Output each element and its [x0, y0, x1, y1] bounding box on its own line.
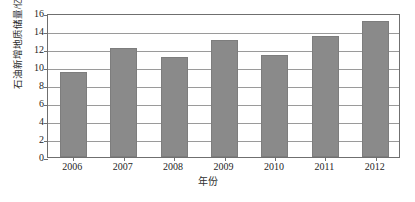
bar-2012 — [362, 21, 389, 157]
y-tick-label: 12 — [20, 45, 44, 55]
y-tick-label: 8 — [20, 81, 44, 91]
bar-2010 — [261, 55, 288, 157]
y-axis-tick-labels: 0246810121416 — [20, 0, 44, 202]
bars-group — [48, 15, 399, 157]
bar-chart: 石油新增地质储量/亿吨 0246810121416 20062007200820… — [0, 0, 415, 202]
x-axis-tick-labels: 2006200720082009201020112012 — [47, 161, 400, 175]
bar-2006 — [60, 72, 87, 157]
x-tick-label-2007: 2007 — [101, 161, 145, 173]
plot-area — [47, 14, 400, 158]
y-tick-label: 2 — [20, 135, 44, 145]
y-tick-label: 16 — [20, 9, 44, 19]
x-tick-label-2010: 2010 — [252, 161, 296, 173]
y-tick-label: 0 — [20, 153, 44, 163]
y-tick-label: 14 — [20, 27, 44, 37]
x-tick-label-2008: 2008 — [151, 161, 195, 173]
y-tick-mark — [44, 159, 48, 160]
x-axis-title: 年份 — [0, 176, 415, 188]
y-tick-label: 10 — [20, 63, 44, 73]
bar-2011 — [312, 36, 339, 157]
y-tick-label: 6 — [20, 99, 44, 109]
x-tick-label-2012: 2012 — [353, 161, 397, 173]
x-tick-label-2006: 2006 — [50, 161, 94, 173]
bar-2008 — [161, 57, 188, 157]
x-tick-label-2009: 2009 — [202, 161, 246, 173]
bar-2007 — [110, 48, 137, 157]
y-tick-label: 4 — [20, 117, 44, 127]
bar-2009 — [211, 40, 238, 157]
x-tick-label-2011: 2011 — [302, 161, 346, 173]
